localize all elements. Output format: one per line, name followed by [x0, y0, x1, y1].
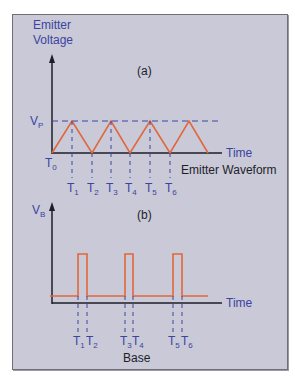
panel-a-tag: (a) [137, 64, 152, 78]
svg-text:T5: T5 [145, 181, 157, 197]
tick-labels-b: T1 T2 T3 T4 T5 T6 [73, 334, 193, 350]
emitter-waveform-caption: Emitter Waveform [181, 163, 277, 177]
x-axis-label-time-b: Time [226, 296, 253, 310]
tick-labels-a: T1 T2 T3 T4 T5 T6 [67, 181, 177, 197]
t0-label: T0 [45, 156, 57, 172]
panel-b-tag: (b) [137, 208, 152, 222]
x-axis-label-time-a: Time [226, 146, 253, 160]
vb-label: VB [32, 203, 45, 219]
y-axis-label-emitter: Emitter [33, 18, 71, 32]
svg-text:T4: T4 [125, 181, 137, 197]
svg-text:T6: T6 [165, 181, 177, 197]
base-caption: Base [123, 351, 151, 365]
y-axis-arrow-icon [49, 54, 55, 63]
svg-text:T3: T3 [120, 334, 132, 350]
svg-text:T4: T4 [132, 334, 144, 350]
panel-a: Emitter Voltage (a) Time VP T0 T1 T2 T3 … [30, 18, 277, 197]
svg-text:T2: T2 [87, 181, 99, 197]
svg-text:T6: T6 [181, 334, 193, 350]
svg-text:T2: T2 [86, 334, 98, 350]
y-axis-arrow-icon [49, 202, 55, 211]
panel-b: VB (b) Time T1 T2 T3 T4 T5 T6 Base [32, 202, 253, 365]
emitter-waveform [52, 121, 208, 153]
svg-text:T5: T5 [168, 334, 180, 350]
waveform-diagram: Emitter Voltage (a) Time VP T0 T1 T2 T3 … [0, 0, 295, 383]
base-pulse-waveform [50, 254, 208, 296]
y-axis-label-voltage: Voltage [33, 33, 73, 47]
vp-label: VP [30, 114, 43, 130]
svg-text:T1: T1 [67, 181, 79, 197]
svg-text:T3: T3 [106, 181, 118, 197]
svg-text:T1: T1 [73, 334, 85, 350]
tick-guides-b [78, 296, 182, 332]
